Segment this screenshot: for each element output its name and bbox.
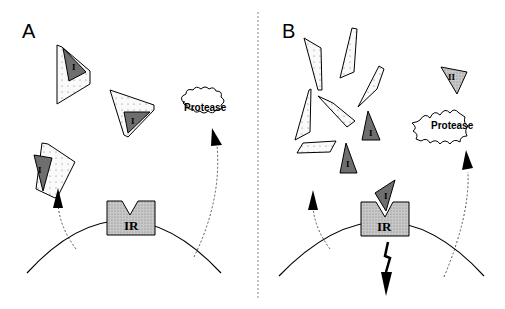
protease-label: Protease: [431, 120, 474, 131]
panel-a: A I I I Protease: [22, 20, 227, 273]
ligand-label: I: [384, 191, 388, 201]
panel-a-label: A: [22, 20, 36, 42]
panel-b-label: B: [282, 20, 295, 42]
receptor-label: IR: [124, 218, 139, 233]
ligand-label: II: [448, 72, 456, 82]
complex-a1: I: [57, 45, 90, 104]
signal-lightning-icon: [381, 242, 392, 296]
protease-active: Protease: [412, 110, 474, 144]
figure-canvas: A I I I Protease: [0, 0, 505, 309]
protease-cloud: Protease: [181, 87, 226, 113]
receptor-label: IR: [377, 219, 392, 234]
complex-a2: I: [110, 90, 154, 137]
ligand-label: I: [38, 165, 42, 175]
arrow-head-icon: [211, 128, 222, 146]
free-ligand-2: I: [340, 143, 357, 173]
dashed-path: [444, 172, 468, 277]
ligand-II: II: [441, 67, 467, 94]
complex-a3: I: [34, 143, 75, 198]
arrow-head-icon: [462, 150, 473, 170]
ligand-label: I: [72, 62, 76, 72]
arrow-head-icon: [308, 190, 318, 210]
free-ligand-1: I: [362, 111, 380, 140]
panel-b: B I I II Protease: [279, 20, 484, 296]
protease-label: Protease: [184, 102, 227, 113]
dashed-path: [194, 145, 218, 257]
ligand-label: I: [369, 128, 373, 138]
insulin-receptor-a: IR: [107, 201, 155, 235]
ligand-label: I: [131, 116, 135, 126]
ligand-label: I: [346, 159, 350, 169]
